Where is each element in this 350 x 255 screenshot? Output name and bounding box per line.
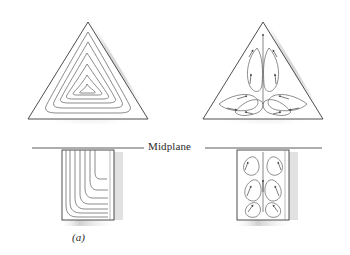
panel-a-graphics [0,0,175,255]
midplane-label: Midplane [148,140,191,152]
panel-a: (a) [0,0,175,255]
panel-b: (b) [175,0,350,255]
triangle-cross-section-a [28,22,148,119]
figure-container: (a) [0,0,350,255]
panel-a-caption: (a) [72,231,85,243]
panel-b-graphics [175,0,350,255]
